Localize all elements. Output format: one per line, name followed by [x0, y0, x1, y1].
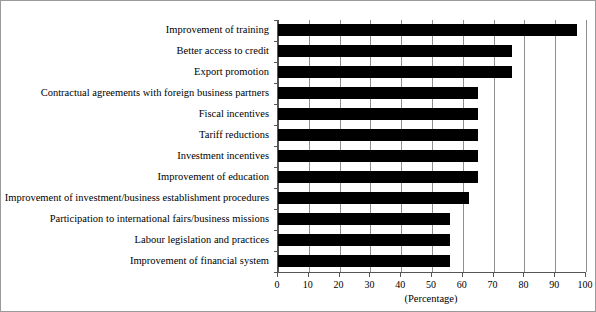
y-tick	[274, 104, 278, 105]
bar	[278, 66, 512, 78]
bar	[278, 87, 478, 99]
y-tick	[274, 125, 278, 126]
x-axis-title: (Percentage)	[277, 293, 585, 304]
y-tick	[274, 41, 278, 42]
bar-row	[278, 209, 585, 230]
bar	[278, 255, 450, 267]
y-tick	[274, 230, 278, 231]
bar-row	[278, 125, 585, 146]
x-tick-40	[400, 272, 401, 277]
x-tick-label-100: 100	[565, 279, 596, 291]
bar-row	[278, 188, 585, 209]
bar	[278, 108, 478, 120]
y-tick	[274, 167, 278, 168]
x-tick-20	[339, 272, 340, 277]
x-tick-60	[462, 272, 463, 277]
bar-row	[278, 251, 585, 272]
gridline-100	[586, 20, 587, 272]
x-tick-100	[585, 272, 586, 277]
y-tick	[274, 146, 278, 147]
y-tick	[274, 83, 278, 84]
y-tick	[274, 20, 278, 21]
category-label: Contractual agreements with foreign busi…	[1, 87, 269, 99]
category-label: Improvement of financial system	[1, 255, 269, 267]
category-label: Better access to credit	[1, 45, 269, 57]
category-label: Fiscal incentives	[1, 108, 269, 120]
bar	[278, 24, 577, 36]
x-tick-80	[523, 272, 524, 277]
chart-figure: Improvement of trainingBetter access to …	[0, 0, 596, 312]
x-tick-10	[308, 272, 309, 277]
x-tick-70	[493, 272, 494, 277]
category-label: Tariff reductions	[1, 129, 269, 141]
plot-area	[277, 20, 585, 272]
category-label: Labour legislation and practices	[1, 234, 269, 246]
bar-row	[278, 41, 585, 62]
bar	[278, 171, 478, 183]
bar	[278, 129, 478, 141]
bar-row	[278, 62, 585, 83]
category-label: Improvement of training	[1, 24, 269, 36]
bar	[278, 213, 450, 225]
bar-row	[278, 83, 585, 104]
bar	[278, 192, 469, 204]
bar-row	[278, 230, 585, 251]
category-label: Improvement of education	[1, 171, 269, 183]
x-tick-0	[277, 272, 278, 277]
category-label: Participation to international fairs/bus…	[1, 213, 269, 225]
y-tick	[274, 62, 278, 63]
bar-row	[278, 167, 585, 188]
bar-series	[278, 20, 585, 272]
bar-row	[278, 20, 585, 41]
x-tick-50	[431, 272, 432, 277]
y-tick	[274, 209, 278, 210]
bar	[278, 45, 512, 57]
bar	[278, 150, 478, 162]
x-tick-90	[554, 272, 555, 277]
bar-row	[278, 104, 585, 125]
y-tick	[274, 188, 278, 189]
category-label: Investment incentives	[1, 150, 269, 162]
x-tick-30	[369, 272, 370, 277]
y-tick	[274, 251, 278, 252]
category-label: Improvement of investment/business estab…	[1, 192, 269, 204]
category-label: Export promotion	[1, 66, 269, 78]
bar	[278, 234, 450, 246]
bar-row	[278, 146, 585, 167]
category-label-column: Improvement of trainingBetter access to …	[1, 20, 273, 272]
